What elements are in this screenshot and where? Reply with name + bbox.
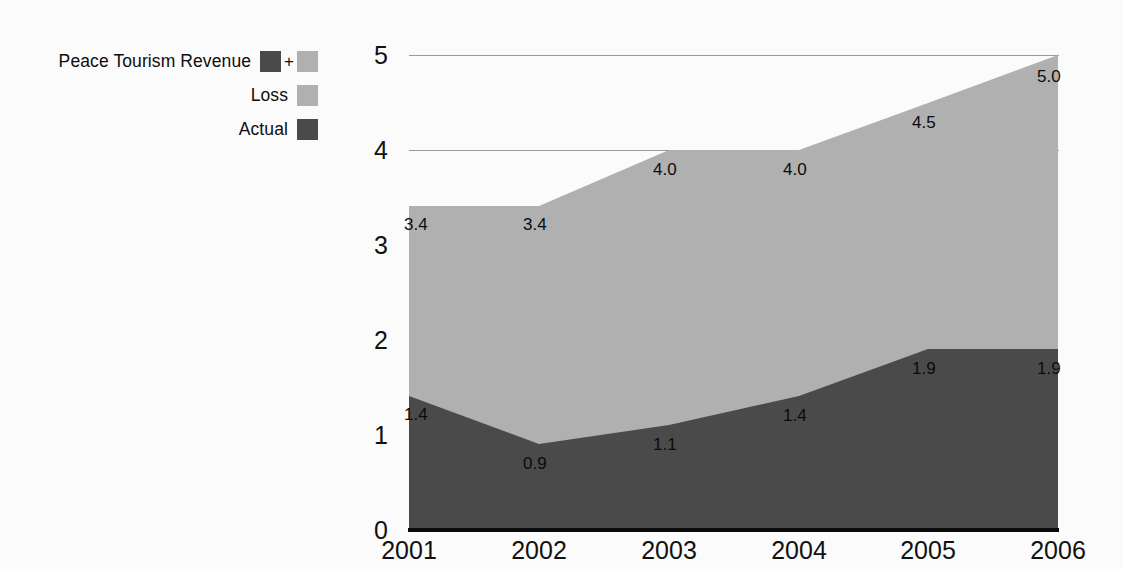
x-tick-2002: 2002 — [479, 538, 599, 563]
data-label-actual-2005: 1.9 — [912, 360, 936, 377]
data-label-total-2001: 3.4 — [404, 216, 428, 233]
y-tick-4: 4 — [346, 138, 388, 163]
x-tick-2003: 2003 — [609, 538, 729, 563]
data-label-actual-2001: 1.4 — [404, 406, 428, 423]
stacked-area-chart: 5 4 3 2 1 0 2001 2002 2003 2004 2005 200… — [0, 0, 1123, 569]
data-label-actual-2004: 1.4 — [783, 407, 807, 424]
data-label-actual-2002: 0.9 — [523, 455, 547, 472]
y-tick-2: 2 — [346, 328, 388, 353]
x-tick-2004: 2004 — [739, 538, 859, 563]
data-label-total-2003: 4.0 — [653, 161, 677, 178]
data-label-total-2005: 4.5 — [912, 114, 936, 131]
data-label-total-2006: 5.0 — [1037, 68, 1061, 85]
data-label-total-2002: 3.4 — [523, 216, 547, 233]
data-label-total-2004: 4.0 — [783, 161, 807, 178]
x-tick-2001: 2001 — [349, 538, 469, 563]
data-label-actual-2003: 1.1 — [653, 436, 677, 453]
data-label-actual-2006: 1.9 — [1037, 360, 1061, 377]
x-axis-line — [408, 528, 1059, 532]
y-tick-5: 5 — [346, 43, 388, 68]
plot-area — [0, 0, 1123, 569]
x-tick-2005: 2005 — [868, 538, 988, 563]
y-tick-3: 3 — [346, 233, 388, 258]
x-tick-2006: 2006 — [998, 538, 1118, 563]
y-tick-1: 1 — [346, 423, 388, 448]
